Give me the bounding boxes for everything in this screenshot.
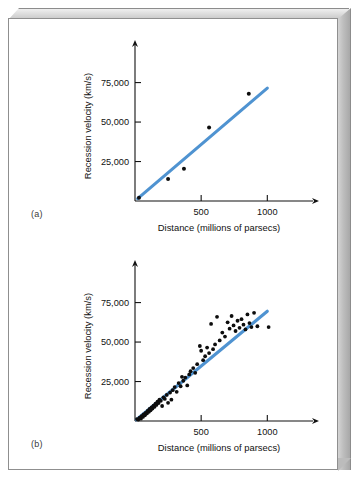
data-point — [137, 196, 141, 200]
frame-bevel-right — [338, 8, 351, 470]
data-point — [250, 325, 254, 329]
data-point — [226, 320, 230, 324]
data-point — [182, 167, 186, 171]
x-tick-label: 500 — [193, 427, 208, 437]
data-point — [244, 328, 248, 332]
x-axis-title: Distance (millions of parsecs) — [158, 442, 280, 453]
data-point — [220, 331, 224, 335]
y-axis-title: Recession velocity (km/s) — [82, 293, 93, 399]
data-point — [159, 399, 163, 403]
data-point — [228, 327, 232, 331]
y-tick-label: 25,000 — [101, 377, 129, 387]
data-point — [246, 313, 250, 317]
data-point — [207, 351, 211, 355]
data-point — [213, 343, 217, 347]
data-point — [207, 126, 211, 130]
data-point — [163, 397, 167, 401]
scatter-chart-b: 25,00050,00075,0005001000Distance (milli… — [9, 241, 339, 471]
data-point — [189, 369, 193, 373]
panel-letter-b: (b) — [31, 439, 43, 449]
data-point — [248, 321, 252, 325]
data-point — [175, 390, 179, 394]
y-tick-label: 75,000 — [101, 298, 129, 308]
data-point — [255, 324, 259, 328]
data-point — [177, 381, 181, 385]
data-point — [215, 315, 219, 319]
data-point — [181, 379, 185, 383]
chart-panel-a: (a) 25,00050,00075,0005001000Distance (m… — [9, 19, 339, 245]
data-point — [203, 354, 207, 358]
data-point — [242, 323, 246, 327]
x-tick-label: 1000 — [257, 427, 277, 437]
x-tick-label: 1000 — [257, 207, 277, 217]
data-point — [201, 358, 205, 362]
data-point — [191, 366, 195, 370]
x-tick-label: 500 — [193, 207, 208, 217]
data-point — [247, 92, 251, 96]
data-point — [199, 349, 203, 353]
chart-panel-b: (b) 25,00050,00075,0005001000Distance (m… — [9, 241, 339, 467]
data-point — [209, 322, 213, 326]
x-axis-title: Distance (millions of parsecs) — [158, 222, 280, 233]
y-axis-title: Recession velocity (km/s) — [82, 73, 93, 179]
data-point — [218, 339, 222, 343]
data-point — [230, 314, 234, 318]
data-point — [267, 325, 271, 329]
y-tick-label: 50,000 — [101, 117, 129, 127]
data-point — [179, 384, 183, 388]
data-point — [195, 362, 199, 366]
figure-panel: (a) 25,00050,00075,0005001000Distance (m… — [8, 18, 338, 470]
hubble-fit-line — [138, 88, 268, 199]
data-point — [160, 404, 164, 408]
data-point — [185, 384, 189, 388]
data-point — [205, 346, 209, 350]
figure-frame: (a) 25,00050,00075,0005001000Distance (m… — [0, 0, 357, 498]
x-axis-arrow — [312, 418, 319, 424]
data-point — [180, 375, 184, 379]
panel-letter-a: (a) — [31, 209, 43, 219]
data-point — [198, 344, 202, 348]
y-tick-label: 50,000 — [101, 337, 129, 347]
data-point — [238, 326, 242, 330]
data-point — [252, 311, 256, 315]
data-point — [211, 347, 215, 351]
x-axis-arrow — [312, 198, 319, 204]
data-point — [166, 401, 170, 405]
data-point — [236, 319, 240, 323]
data-point — [223, 335, 227, 339]
data-point — [234, 329, 238, 333]
scatter-chart-a: 25,00050,00075,0005001000Distance (milli… — [9, 19, 339, 245]
data-point — [232, 324, 236, 328]
data-point — [166, 177, 170, 181]
data-point — [173, 385, 177, 389]
data-point — [169, 398, 173, 402]
y-tick-label: 25,000 — [101, 157, 129, 167]
data-point — [193, 371, 197, 375]
data-point — [171, 388, 175, 392]
data-point — [183, 376, 187, 380]
y-tick-label: 75,000 — [101, 78, 129, 88]
data-point — [240, 317, 244, 321]
data-point — [165, 393, 169, 397]
